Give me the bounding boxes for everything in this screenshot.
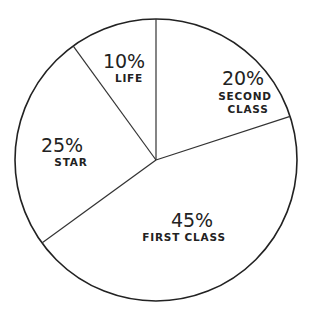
slice-pct: 25%: [41, 134, 83, 156]
slice-label-line1: SECOND: [218, 90, 272, 102]
slice-label: LIFE: [115, 72, 143, 84]
slice-pct: 45%: [171, 209, 213, 231]
slice-label: FIRST CLASS: [142, 231, 226, 243]
slice-pct: 20%: [222, 67, 264, 89]
slice-pct: 10%: [103, 50, 145, 72]
pie-chart: 20% SECOND CLASS 45% FIRST CLASS 25% STA…: [0, 0, 309, 319]
slice-label-line2: CLASS: [227, 103, 268, 115]
slice-label: STAR: [54, 156, 87, 168]
